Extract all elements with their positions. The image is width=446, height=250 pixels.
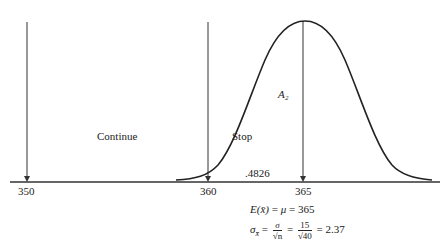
expectation-formula: E(x̄) = μ = 365 [250,203,314,215]
area-a2-label: A₂ [278,88,289,100]
expectation-lhs: E(x̄) [250,203,269,215]
tick-365: 365 [295,185,312,197]
arrow-365-icon [300,176,306,182]
normal-curve-diagram [0,0,446,250]
arrow-360-icon [205,176,211,182]
arrow-350-icon [24,176,30,182]
fraction-sigma-over-root-n: σ √n [273,220,282,241]
continue-label: Continue [97,130,137,142]
area-value-label: .4826 [245,167,270,179]
tick-350: 350 [18,185,35,197]
normal-curve [176,21,432,180]
std-error-formula: σx̄ = σ √n = 15 √40 = 2.37 [250,220,345,241]
fraction-15-over-root-40: 15 √40 [298,220,312,241]
tick-360: 360 [200,185,217,197]
stop-label: Stop [232,130,252,142]
